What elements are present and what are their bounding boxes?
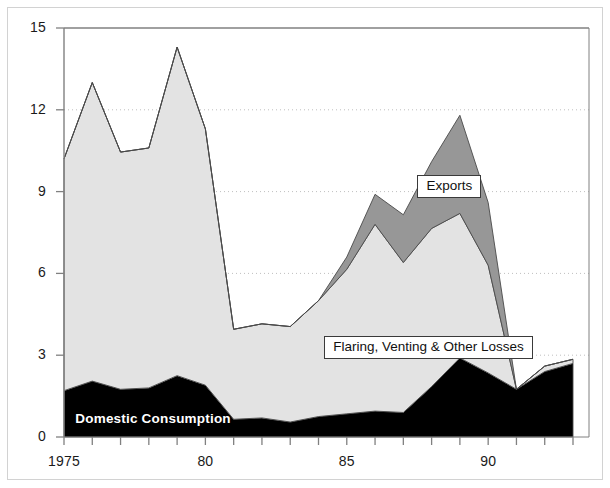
x-tick-label: 85 [317,453,377,469]
y-tick-label: 0 [16,428,46,444]
area-series-group [64,47,573,437]
y-tick-label: 3 [16,346,46,362]
chart-figure: 03691215 1975808590 Exports Flaring, Ven… [0,0,610,488]
y-tick-label: 6 [16,264,46,280]
x-tick-label: 90 [458,453,518,469]
y-tick-label: 12 [16,101,46,117]
x-tick-label: 1975 [34,453,94,469]
y-tick-label: 9 [16,183,46,199]
y-tick-label: 15 [16,19,46,35]
series-label-exports: Exports [417,175,481,198]
x-tick-label: 80 [175,453,235,469]
series-label-domestic-consumption: Domestic Consumption [75,411,231,426]
series-label-flaring-venting-other-losses: Flaring, Venting & Other Losses [324,336,533,359]
